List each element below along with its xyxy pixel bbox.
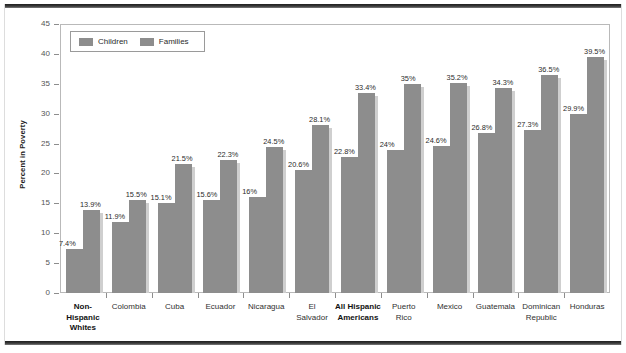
bar-children[interactable] bbox=[66, 249, 83, 293]
bar-families[interactable] bbox=[83, 210, 100, 293]
x-tick-mark bbox=[381, 293, 382, 298]
bar-children[interactable] bbox=[295, 170, 312, 293]
bar-shadow bbox=[421, 87, 424, 293]
bar-shadow bbox=[329, 128, 332, 293]
x-tick-mark bbox=[243, 293, 244, 298]
x-category-line: Rico bbox=[375, 313, 433, 324]
bar-families[interactable] bbox=[587, 57, 604, 293]
bar-children[interactable] bbox=[478, 133, 495, 293]
bar-children[interactable] bbox=[112, 222, 129, 293]
bar-shadow bbox=[375, 96, 378, 293]
x-category-line: Republic bbox=[512, 313, 570, 324]
y-tick-label: 30 bbox=[28, 110, 50, 118]
x-category-line: Hispanic bbox=[54, 313, 112, 324]
bar-families[interactable] bbox=[495, 88, 512, 293]
data-label-families: 21.5% bbox=[172, 155, 193, 163]
y-tick-mark bbox=[54, 84, 59, 85]
bar-group bbox=[243, 24, 289, 293]
bar-shadow bbox=[283, 150, 286, 293]
y-tick-label: 35 bbox=[28, 80, 50, 88]
data-label-families: 36.5% bbox=[538, 66, 559, 74]
data-label-children: 24% bbox=[380, 141, 395, 149]
data-label-children: 15.6% bbox=[196, 191, 217, 199]
bar-group bbox=[473, 24, 519, 293]
x-tick-mark bbox=[564, 293, 565, 298]
data-label-children: 27.3% bbox=[517, 121, 538, 129]
bar-shadow bbox=[192, 167, 195, 293]
data-label-families: 39.5% bbox=[584, 48, 605, 56]
bar-shadow bbox=[512, 91, 515, 293]
y-tick-mark bbox=[54, 144, 59, 145]
y-axis-title: Percent in Poverty bbox=[18, 95, 27, 215]
bar-shadow bbox=[604, 60, 607, 293]
bar-group bbox=[381, 24, 427, 293]
bar-shadow bbox=[558, 78, 561, 293]
data-label-families: 33.4% bbox=[355, 84, 376, 92]
bar-shadow bbox=[237, 163, 240, 293]
bar-families[interactable] bbox=[220, 160, 237, 293]
y-tick-mark bbox=[54, 263, 59, 264]
x-tick-mark bbox=[198, 293, 199, 298]
y-tick-label: 25 bbox=[28, 140, 50, 148]
y-tick-label: 45 bbox=[28, 20, 50, 28]
bar-families[interactable] bbox=[175, 164, 192, 293]
x-tick-mark bbox=[427, 293, 428, 298]
bar-children[interactable] bbox=[387, 150, 404, 293]
data-label-families: 35% bbox=[401, 75, 416, 83]
bar-shadow bbox=[146, 203, 149, 293]
data-label-children: 29.9% bbox=[563, 105, 584, 113]
bar-children[interactable] bbox=[433, 146, 450, 293]
data-label-families: 28.1% bbox=[309, 116, 330, 124]
data-label-families: 24.5% bbox=[263, 138, 284, 146]
data-label-families: 13.9% bbox=[80, 201, 101, 209]
data-label-children: 11.9% bbox=[105, 213, 125, 221]
bar-group bbox=[106, 24, 152, 293]
y-tick-mark bbox=[54, 233, 59, 234]
y-tick-label: 20 bbox=[28, 169, 50, 177]
bar-families[interactable] bbox=[450, 83, 467, 293]
data-label-children: 7.4% bbox=[59, 240, 76, 248]
figure-page: 051015202530354045 Percent in Poverty Ch… bbox=[0, 0, 626, 353]
bar-children[interactable] bbox=[158, 203, 175, 293]
poverty-bar-chart: 051015202530354045 Percent in Poverty Ch… bbox=[0, 0, 626, 353]
bar-group bbox=[60, 24, 106, 293]
bar-children[interactable] bbox=[524, 130, 541, 293]
bar-families[interactable] bbox=[312, 125, 329, 293]
bar-families[interactable] bbox=[541, 75, 558, 293]
bar-families[interactable] bbox=[266, 147, 283, 293]
x-tick-mark bbox=[152, 293, 153, 298]
data-label-families: 34.3% bbox=[492, 79, 513, 87]
x-tick-mark bbox=[335, 293, 336, 298]
data-label-families: 22.3% bbox=[217, 151, 238, 159]
data-label-families: 35.2% bbox=[447, 74, 468, 82]
x-tick-mark bbox=[106, 293, 107, 298]
x-tick-mark bbox=[289, 293, 290, 298]
bar-children[interactable] bbox=[203, 200, 220, 293]
bars-layer bbox=[60, 24, 610, 293]
y-tick-label: 15 bbox=[28, 199, 50, 207]
y-tick-mark bbox=[54, 203, 59, 204]
bar-children[interactable] bbox=[341, 157, 358, 293]
data-label-children: 20.6% bbox=[288, 161, 309, 169]
data-label-children: 24.6% bbox=[426, 137, 447, 145]
bar-shadow bbox=[467, 86, 470, 293]
y-tick-label: 0 bbox=[28, 289, 50, 297]
bar-group bbox=[335, 24, 381, 293]
bar-families[interactable] bbox=[129, 200, 146, 293]
y-tick-mark bbox=[54, 54, 59, 55]
data-label-children: 15.1% bbox=[151, 194, 172, 202]
x-tick-mark bbox=[473, 293, 474, 298]
data-label-families: 15.5% bbox=[126, 191, 147, 199]
bar-families[interactable] bbox=[404, 84, 421, 293]
bar-children[interactable] bbox=[570, 114, 587, 293]
bar-group bbox=[289, 24, 335, 293]
bar-group bbox=[564, 24, 610, 293]
data-label-children: 22.8% bbox=[334, 148, 355, 156]
bar-children[interactable] bbox=[249, 197, 266, 293]
bar-shadow bbox=[100, 213, 103, 293]
y-tick-mark bbox=[54, 114, 59, 115]
y-tick-label: 10 bbox=[28, 229, 50, 237]
data-label-children: 26.8% bbox=[471, 124, 492, 132]
y-tick-label: 5 bbox=[28, 259, 50, 267]
bar-families[interactable] bbox=[358, 93, 375, 293]
